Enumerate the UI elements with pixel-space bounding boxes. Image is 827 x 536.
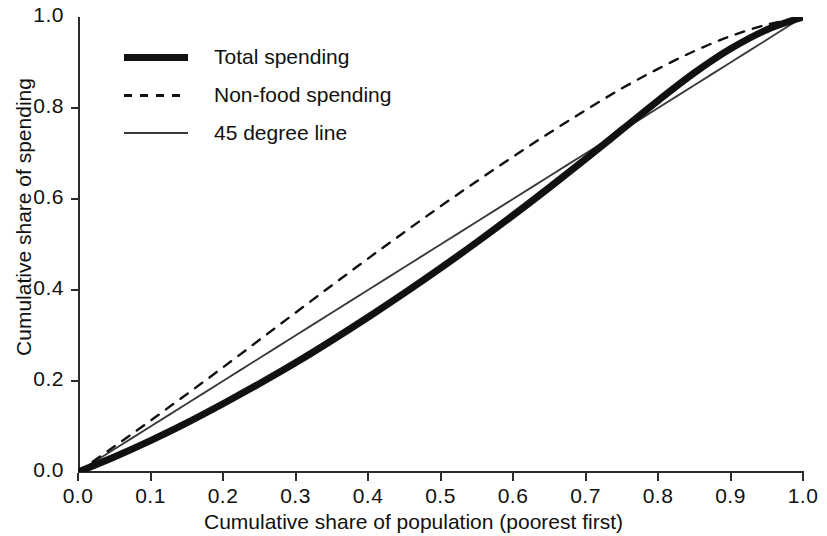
x-tick-0	[77, 473, 79, 481]
x-tick-6	[512, 473, 514, 481]
x-tick-1	[150, 473, 152, 481]
x-tick-label-0: 0.0	[48, 484, 108, 508]
x-tick-label-6: 0.6	[483, 484, 543, 508]
x-tick-5	[440, 473, 442, 481]
x-tick-10	[802, 473, 804, 481]
x-tick-label-10: 1.0	[773, 484, 827, 508]
y-tick-label-0: 0.0	[0, 458, 64, 482]
y-tick-4	[71, 107, 79, 109]
x-tick-3	[295, 473, 297, 481]
y-tick-3	[71, 198, 79, 200]
x-tick-9	[730, 473, 732, 481]
x-tick-7	[585, 473, 587, 481]
x-tick-label-9: 0.9	[701, 484, 761, 508]
y-axis-title-wrapper: Cumulative share of spending	[12, 0, 52, 437]
legend-label-non-food-spending: Non-food spending	[214, 83, 391, 107]
legend-label-45-degree-line: 45 degree line	[214, 121, 347, 145]
x-tick-8	[657, 473, 659, 481]
x-tick-2	[222, 473, 224, 481]
legend-key-dashed-line-icon	[120, 88, 192, 102]
x-tick-label-1: 0.1	[121, 484, 181, 508]
x-tick-label-8: 0.8	[628, 484, 688, 508]
y-tick-2	[71, 289, 79, 291]
legend-entry-non-food-spending: Non-food spending	[120, 76, 391, 114]
chart-legend: Total spending Non-food spending 45 degr…	[120, 38, 391, 152]
legend-entry-45-degree-line: 45 degree line	[120, 114, 391, 152]
legend-entry-total-spending: Total spending	[120, 38, 391, 76]
x-tick-label-5: 0.5	[411, 484, 471, 508]
legend-key-thick-line-icon	[120, 50, 192, 64]
x-tick-label-4: 0.4	[338, 484, 398, 508]
x-tick-label-2: 0.2	[193, 484, 253, 508]
legend-label-total-spending: Total spending	[214, 45, 349, 69]
x-tick-label-3: 0.3	[266, 484, 326, 508]
y-tick-1	[71, 380, 79, 382]
lorenz-curve-chart: 0.00.10.20.30.40.50.60.70.80.91.00.00.20…	[0, 0, 827, 536]
x-tick-4	[367, 473, 369, 481]
legend-key-thin-line-icon	[120, 126, 192, 140]
y-axis-title: Cumulative share of spending	[12, 0, 36, 437]
x-tick-label-7: 0.7	[556, 484, 616, 508]
x-axis-title: Cumulative share of population (poorest …	[0, 510, 827, 534]
